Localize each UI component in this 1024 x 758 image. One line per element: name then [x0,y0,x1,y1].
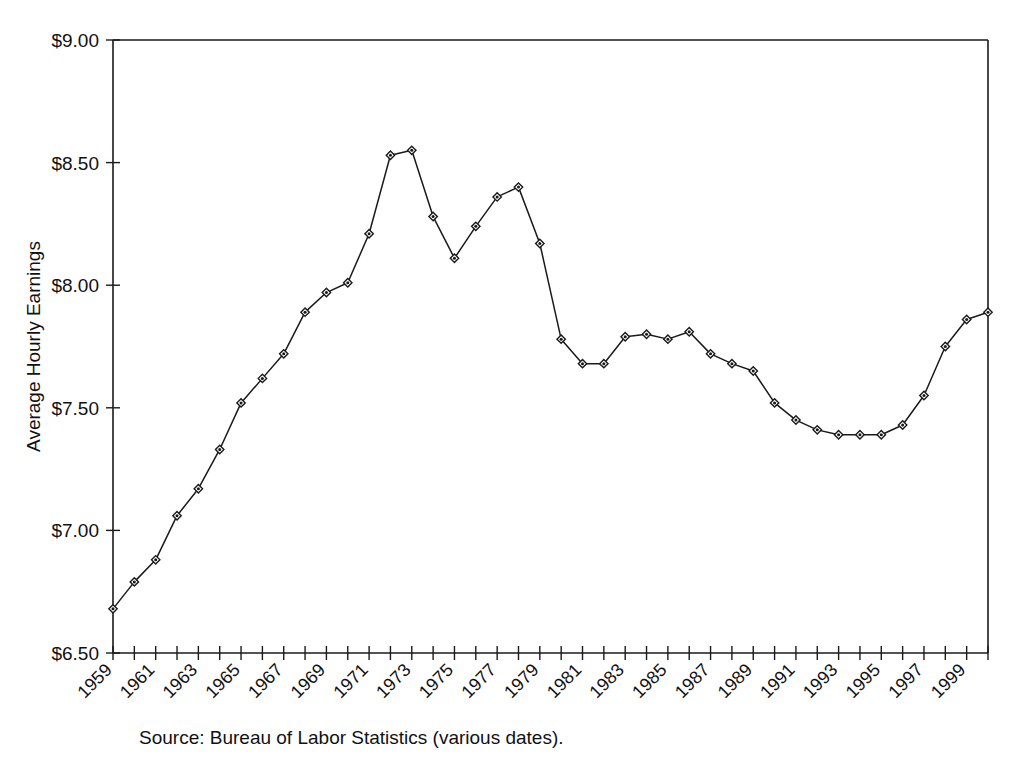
x-tick-label: 1985 [628,660,670,702]
x-tick-label: 1991 [756,660,798,702]
x-tick-label: 1979 [500,660,542,702]
data-point [429,212,437,220]
data-point-center [666,338,669,341]
data-point-center [581,362,584,365]
data-point-center [282,352,285,355]
data-point-center [240,401,243,404]
data-point-center [432,215,435,218]
x-tick-label: 1969 [287,660,329,702]
data-point [642,330,650,338]
data-point-center [517,186,520,189]
x-tick-label: 1993 [799,660,841,702]
x-tick-label: 1997 [884,660,926,702]
figure-page: $9.00$8.50$8.00$7.50$7.00$6.501959196119… [0,0,1024,758]
data-point-center [645,333,648,336]
data-point [216,445,224,453]
y-tick-label: $8.50 [51,153,99,174]
y-tick-label: $8.00 [51,275,99,296]
x-tick-label: 1959 [73,660,115,702]
data-point-center [389,154,392,157]
data-point-center [922,394,925,397]
data-point [728,359,736,367]
data-point [450,254,458,262]
data-point-center [624,335,627,338]
y-axis-title: Average Hourly Earnings [23,241,44,452]
x-tick-label: 1981 [543,660,585,702]
x-tick-label: 1999 [927,660,969,702]
data-point-center [453,257,456,260]
data-point-center [688,330,691,333]
x-tick-label: 1987 [671,660,713,702]
data-point [408,146,416,154]
data-point-center [880,433,883,436]
data-point [664,335,672,343]
data-point-center [944,345,947,348]
y-tick-label: $6.50 [51,643,99,664]
x-tick-label: 1983 [586,660,628,702]
data-point [813,426,821,434]
data-point-center [346,281,349,284]
x-tick-label: 1967 [244,660,286,702]
data-point-center [197,487,200,490]
y-tick-label: $7.50 [51,398,99,419]
data-point-center [858,433,861,436]
data-point-center [112,607,115,610]
data-point-center [730,362,733,365]
x-tick-label: 1961 [116,660,158,702]
data-point-center [560,338,563,341]
data-point-center [474,225,477,228]
data-point-center [176,514,179,517]
data-point [749,367,757,375]
data-point-center [261,377,264,380]
data-point [536,239,544,247]
data-point-center [154,558,157,561]
data-point [834,431,842,439]
line-chart: $9.00$8.50$8.00$7.50$7.00$6.501959196119… [0,0,1024,726]
data-point [514,183,522,191]
x-tick-label: 1995 [842,660,884,702]
data-point-center [133,580,136,583]
data-point [984,308,992,316]
data-point [386,151,394,159]
x-tick-label: 1971 [329,660,371,702]
data-point-center [304,311,307,314]
x-tick-label: 1963 [159,660,201,702]
data-point [877,431,885,439]
data-point-center [709,352,712,355]
data-point-center [325,291,328,294]
x-tick-label: 1977 [458,660,500,702]
data-point-center [752,370,755,373]
x-tick-label: 1989 [714,660,756,702]
source-note: Source: Bureau of Labor Statistics (vari… [139,727,564,749]
data-point-center [496,195,499,198]
data-point-center [218,448,221,451]
data-point-center [538,242,541,245]
data-point [856,431,864,439]
x-tick-label: 1973 [372,660,414,702]
data-series-line [113,150,988,609]
data-point-center [410,149,413,152]
data-point [365,230,373,238]
y-tick-label: $7.00 [51,520,99,541]
data-point-center [816,428,819,431]
data-point-center [602,362,605,365]
data-point-center [901,423,904,426]
x-tick-label: 1975 [415,660,457,702]
data-point-center [794,419,797,422]
data-point-center [368,232,371,235]
y-tick-label: $9.00 [51,30,99,51]
data-point-center [773,401,776,404]
data-point-center [837,433,840,436]
x-tick-label: 1965 [201,660,243,702]
data-point [344,279,352,287]
data-point-center [965,318,968,321]
data-point-center [987,311,990,314]
